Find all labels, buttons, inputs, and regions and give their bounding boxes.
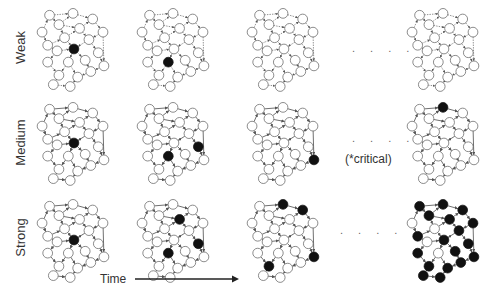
ellipsis-weak: . . . . <box>352 42 415 54</box>
inactive-node <box>54 211 64 221</box>
network-graph-icon <box>128 195 218 285</box>
inactive-node <box>152 237 162 247</box>
active-node <box>468 218 478 228</box>
inactive-node <box>198 27 208 37</box>
inactive-node <box>468 27 478 37</box>
network-medium-t2 <box>238 98 328 188</box>
inactive-node <box>456 67 466 77</box>
inactive-node <box>37 218 47 228</box>
active-node <box>413 248 423 258</box>
inactive-node <box>80 149 90 159</box>
inactive-node <box>433 248 443 258</box>
inactive-node <box>413 151 423 161</box>
inactive-node <box>285 215 295 225</box>
inactive-node <box>86 258 96 268</box>
inactive-node <box>439 138 449 148</box>
inactive-node <box>65 82 75 92</box>
network-weak-t1 <box>128 4 218 94</box>
inactive-node <box>308 218 318 228</box>
inactive-node <box>450 149 460 159</box>
inactive-node <box>258 174 268 184</box>
inactive-node <box>247 218 257 228</box>
active-node <box>175 215 185 225</box>
inactive-node <box>173 166 183 176</box>
network-weak-t2 <box>238 4 328 94</box>
critical-note: (*critical) <box>345 152 392 166</box>
inactive-node <box>407 121 417 131</box>
inactive-node <box>290 246 300 256</box>
inactive-node <box>283 263 293 273</box>
inactive-node <box>84 35 94 45</box>
inactive-node <box>98 218 108 228</box>
inactive-node <box>184 35 194 45</box>
time-label: Time <box>100 272 126 286</box>
inactive-node <box>168 103 178 113</box>
inactive-node <box>84 129 94 139</box>
inactive-node <box>54 20 64 30</box>
inactive-node <box>270 33 280 43</box>
inactive-node <box>54 70 64 80</box>
inactive-node <box>188 205 198 215</box>
inactive-node <box>184 226 194 236</box>
inactive-node <box>93 48 103 58</box>
inactive-node <box>247 27 257 37</box>
inactive-node <box>422 140 432 150</box>
inactive-node <box>43 134 53 144</box>
inactive-node <box>199 252 209 262</box>
inactive-node <box>264 114 274 124</box>
inactive-node <box>264 164 274 174</box>
inactive-node <box>180 149 190 159</box>
inactive-node <box>458 108 468 118</box>
inactive-node <box>199 61 209 71</box>
inactive-node <box>165 176 175 186</box>
inactive-node <box>137 27 147 37</box>
inactive-node <box>45 10 55 20</box>
inactive-node <box>308 121 318 131</box>
inactive-node <box>296 67 306 77</box>
inactive-node <box>45 201 55 211</box>
inactive-node <box>75 24 85 34</box>
inactive-node <box>413 57 423 67</box>
inactive-node <box>279 138 289 148</box>
inactive-node <box>270 127 280 137</box>
inactive-node <box>45 104 55 114</box>
inactive-node <box>435 176 445 186</box>
inactive-node <box>270 224 280 234</box>
inactive-node <box>275 273 285 283</box>
inactive-node <box>290 149 300 159</box>
ellipsis-medium: . . . . <box>352 132 415 144</box>
inactive-node <box>285 24 295 34</box>
inactive-node <box>285 118 295 128</box>
inactive-node <box>73 263 83 273</box>
inactive-node <box>407 27 417 37</box>
inactive-node <box>433 151 443 161</box>
inactive-node <box>43 248 53 258</box>
inactive-node <box>68 103 78 113</box>
inactive-node <box>165 82 175 92</box>
inactive-node <box>175 118 185 128</box>
inactive-node <box>445 24 455 34</box>
inactive-node <box>309 61 319 71</box>
inactive-node <box>258 271 268 281</box>
active-node <box>69 44 79 54</box>
active-node <box>424 211 434 221</box>
inactive-node <box>43 40 53 50</box>
inactive-node <box>308 27 318 37</box>
inactive-node <box>73 72 83 82</box>
inactive-node <box>160 224 170 234</box>
active-node <box>450 246 460 256</box>
inactive-node <box>169 235 179 245</box>
inactive-node <box>294 35 304 45</box>
inactive-node <box>88 14 98 24</box>
inactive-node <box>145 201 155 211</box>
inactive-node <box>43 57 53 67</box>
active-node <box>298 205 308 215</box>
inactive-node <box>93 239 103 249</box>
inactive-node <box>433 57 443 67</box>
inactive-node <box>258 80 268 90</box>
inactive-node <box>137 218 147 228</box>
inactive-node <box>175 24 185 34</box>
active-node <box>463 239 473 249</box>
active-node <box>413 231 423 241</box>
inactive-node <box>80 246 90 256</box>
